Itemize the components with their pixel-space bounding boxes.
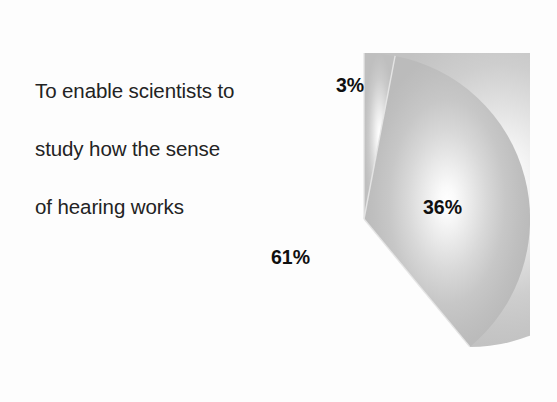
caption-line-3: of hearing works xyxy=(35,192,250,221)
pie-label-61-percent: 61% xyxy=(271,246,310,269)
caption-line-2: study how the sense xyxy=(35,134,250,163)
caption-line-1: To enable scientists to xyxy=(35,76,250,105)
chart-canvas: To enable scientists to study how the se… xyxy=(0,0,557,402)
pie-label-36-percent: 36% xyxy=(423,196,462,219)
chart-caption: To enable scientists to study how the se… xyxy=(35,47,250,250)
pie-label-3-percent: 3% xyxy=(336,74,364,97)
